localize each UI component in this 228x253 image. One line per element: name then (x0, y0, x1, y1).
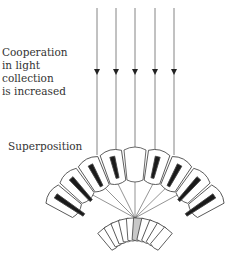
ray-arrowheads (94, 69, 177, 75)
receptor-layer (98, 218, 173, 251)
superposition-eye-diagram (0, 0, 228, 253)
incoming-rays (97, 8, 174, 155)
